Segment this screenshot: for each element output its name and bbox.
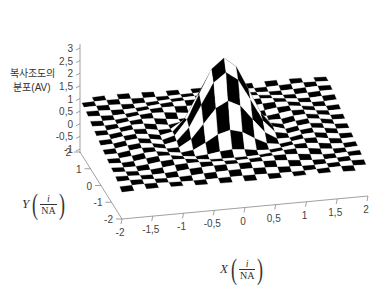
z-tick: 0,5 bbox=[59, 106, 73, 117]
left-paren: ( bbox=[32, 189, 38, 219]
right-paren: ) bbox=[257, 254, 263, 284]
z-tick: -0,5 bbox=[56, 131, 74, 142]
x-tick: 0 bbox=[240, 216, 246, 227]
z-axis-label-line2: 분포(AV) bbox=[4, 81, 60, 95]
z-tick: 0 bbox=[67, 119, 73, 130]
y-axis-label: Y ( i NA ) bbox=[22, 189, 67, 219]
z-axis-label-line1: 복사조도의 bbox=[4, 67, 60, 81]
x-axis-var: X bbox=[220, 261, 228, 277]
y-tick: 0 bbox=[86, 181, 92, 192]
surface-plot: -1-0,500,511,522,53210-1-2-2-1,5-1-0,500… bbox=[0, 0, 378, 289]
x-tick: -2 bbox=[116, 227, 125, 238]
x-tick: 1 bbox=[302, 210, 308, 221]
y-tick: -1 bbox=[94, 197, 103, 208]
x-axis-label: X ( i NA ) bbox=[220, 254, 265, 284]
y-axis-var: Y bbox=[22, 196, 29, 212]
z-tick: 2,5 bbox=[59, 56, 73, 67]
z-tick: 3 bbox=[67, 43, 73, 54]
left-paren: ( bbox=[231, 254, 237, 284]
y-tick: -2 bbox=[104, 214, 113, 225]
y-tick: 1 bbox=[76, 164, 82, 175]
x-tick: -1 bbox=[177, 221, 186, 232]
z-tick: 2 bbox=[67, 68, 73, 79]
z-axis-label: 복사조도의 분포(AV) bbox=[4, 67, 60, 95]
x-tick: 0,5 bbox=[267, 213, 281, 224]
right-paren: ) bbox=[59, 189, 65, 219]
y-axis-fraction: i NA bbox=[40, 193, 56, 216]
y-tick: 2 bbox=[65, 147, 71, 158]
x-tick: -0,5 bbox=[204, 218, 222, 229]
x-tick: 1,5 bbox=[328, 207, 342, 218]
x-tick: -1,5 bbox=[142, 224, 160, 235]
x-axis-fraction: i NA bbox=[239, 258, 255, 281]
checkerboard-surface bbox=[80, 58, 368, 192]
x-tick: 2 bbox=[363, 204, 369, 215]
z-tick: 1,5 bbox=[59, 81, 73, 92]
z-tick: 1 bbox=[67, 94, 73, 105]
